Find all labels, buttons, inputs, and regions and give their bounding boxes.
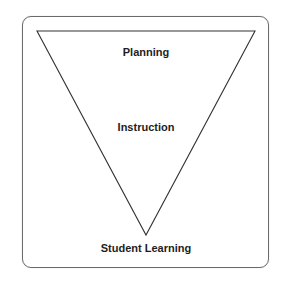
triangle-shape — [37, 31, 255, 235]
label-planning: Planning — [123, 46, 169, 58]
label-student-learning: Student Learning — [101, 242, 191, 254]
label-instruction: Instruction — [118, 121, 175, 133]
